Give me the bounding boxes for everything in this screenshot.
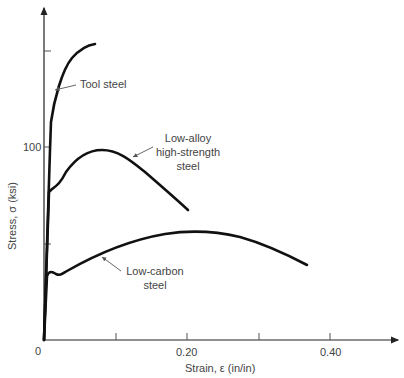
x-axis-title: Strain, ε (in/in) xyxy=(185,362,255,374)
annotation-tool-steel: Tool steel xyxy=(80,78,126,90)
curve-low-alloy-steel xyxy=(44,150,188,340)
leader-low-carbon xyxy=(102,257,121,271)
annotation-low-carbon-line1: Low-carbon xyxy=(126,265,183,277)
y-tick-label-100: 100 xyxy=(23,141,41,153)
y-axis-title: Stress, σ (ksi) xyxy=(6,182,18,250)
annotation-low-alloy-line2: high-strength xyxy=(156,146,220,158)
x-origin-label: 0 xyxy=(35,345,41,357)
curve-low-carbon-steel xyxy=(44,232,307,340)
stress-strain-chart: 0 0.20 0.40 100 Strain, ε (in/in) Stress… xyxy=(0,0,404,378)
leader-low-alloy xyxy=(133,147,153,157)
annotation-low-carbon-line2: steel xyxy=(143,279,166,291)
annotation-low-alloy-line3: steel xyxy=(176,160,199,172)
annotation-low-alloy-line1: Low-alloy xyxy=(165,132,212,144)
x-tick-label-020: 0.20 xyxy=(176,346,197,358)
x-tick-label-040: 0.40 xyxy=(320,346,341,358)
